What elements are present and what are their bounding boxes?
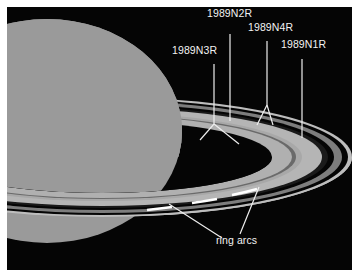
label-1989n4r: 1989N4R	[248, 21, 293, 33]
label-1989n2r: 1989N2R	[207, 7, 252, 19]
label-ring-arcs: ring arcs	[216, 234, 257, 246]
saturn-diagram-panel: 1989N3R 1989N2R 1989N4R 1989N1R ring arc…	[7, 7, 352, 270]
label-1989n1r: 1989N1R	[281, 38, 326, 50]
label-1989n3r: 1989N3R	[172, 44, 217, 56]
